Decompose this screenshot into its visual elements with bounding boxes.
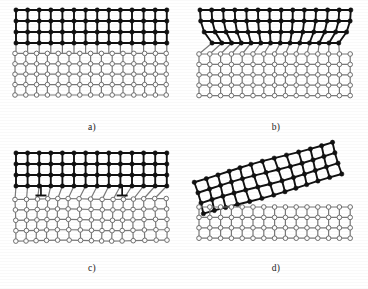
panel-d: d) xyxy=(184,145,368,289)
panel-b: b) xyxy=(184,0,368,145)
panel-c-lattice xyxy=(0,145,184,263)
panel-b-lattice xyxy=(184,0,368,122)
panel-b-label: b) xyxy=(184,122,368,132)
panel-c: c) xyxy=(0,145,184,289)
panel-a: a) xyxy=(0,0,184,145)
panel-a-label: a) xyxy=(0,122,184,132)
panel-a-lattice xyxy=(0,0,184,122)
lattice-figure: a) b) c) d) xyxy=(0,0,368,289)
panel-d-lattice xyxy=(184,145,368,263)
panel-c-label: c) xyxy=(0,263,184,273)
panel-d-label: d) xyxy=(184,263,368,273)
